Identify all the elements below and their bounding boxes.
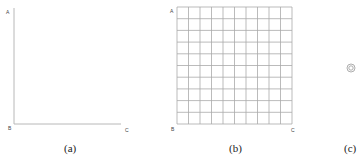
panel-a-label-top: A <box>6 10 9 15</box>
panel-c-caption: (c) <box>344 143 356 154</box>
panel-b-caption: (b) <box>229 143 242 154</box>
panel-a-label-origin: B <box>8 126 11 131</box>
concentric-circles-icon <box>347 64 355 72</box>
panel-b-label-right: C <box>291 128 295 133</box>
panel-a-caption: (a) <box>64 143 76 154</box>
figure-canvas <box>0 0 361 164</box>
panel-b-grid <box>177 7 292 124</box>
panel-a-label-right: C <box>125 128 129 133</box>
panel-b-label-origin: B <box>171 127 174 132</box>
panel-b-label-top: A <box>170 9 173 14</box>
panel-a-axes <box>14 8 121 124</box>
